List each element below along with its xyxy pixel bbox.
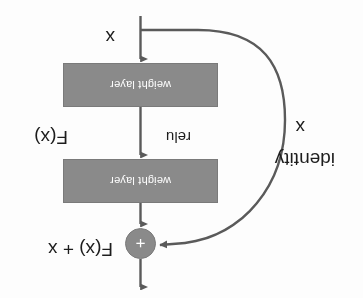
addition-node: + bbox=[125, 228, 156, 259]
output-expression-label: F(x) + x bbox=[48, 238, 113, 260]
function-fx-label: F(x) bbox=[34, 126, 68, 148]
weight-layer-block-1: weight layer bbox=[63, 63, 218, 107]
weight-layer-block-2-label: weight layer bbox=[110, 175, 171, 187]
relu-label: relu bbox=[166, 129, 191, 146]
identity-label: identity bbox=[275, 148, 335, 170]
resnet-residual-block-diagram: weight layer weight layer + x relu F(x) … bbox=[0, 0, 363, 298]
screenshot-root: weight layer weight layer + x relu F(x) … bbox=[0, 0, 363, 298]
weight-layer-block-2: weight layer bbox=[63, 159, 218, 203]
weight-layer-block-1-label: weight layer bbox=[110, 79, 171, 91]
plus-icon: + bbox=[126, 229, 155, 258]
rotated-figure-container: weight layer weight layer + x relu F(x) … bbox=[0, 0, 363, 298]
shortcut-x-label: x bbox=[296, 116, 306, 138]
input-x-label: x bbox=[106, 26, 116, 48]
